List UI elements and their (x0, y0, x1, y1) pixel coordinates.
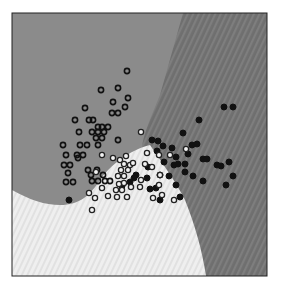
data-point (142, 161, 147, 166)
data-point (200, 178, 206, 184)
data-point (218, 163, 224, 169)
data-point (105, 193, 110, 198)
data-point (119, 187, 124, 192)
decision-boundary-chart (0, 0, 292, 290)
data-point (110, 155, 115, 160)
data-point (230, 173, 236, 179)
data-point (147, 186, 153, 192)
data-point (121, 161, 126, 166)
data-point (175, 161, 181, 167)
data-point (223, 182, 229, 188)
data-point (114, 194, 119, 199)
data-point (171, 197, 176, 202)
data-point (161, 159, 167, 165)
data-point (156, 152, 161, 157)
data-point (125, 167, 130, 172)
data-point (194, 141, 200, 147)
data-point (226, 159, 232, 165)
data-point (116, 181, 121, 186)
data-point (121, 173, 126, 178)
data-point (123, 153, 128, 158)
data-point (196, 117, 202, 123)
data-point (118, 167, 123, 172)
data-point (167, 152, 172, 157)
data-point (115, 173, 120, 178)
data-point (156, 182, 161, 187)
data-point (230, 104, 236, 110)
data-point (177, 194, 183, 200)
data-point (124, 194, 129, 199)
data-point (149, 137, 155, 143)
data-point (121, 180, 126, 185)
data-point (66, 197, 72, 203)
data-point (160, 143, 166, 149)
data-point (137, 184, 142, 189)
data-point (221, 104, 227, 110)
data-point (99, 185, 104, 190)
data-point (182, 161, 188, 167)
data-point (190, 173, 196, 179)
data-point (138, 129, 143, 134)
data-point (130, 160, 135, 165)
data-point (86, 190, 91, 195)
data-point (150, 195, 155, 200)
data-point (144, 175, 150, 181)
data-point (93, 169, 98, 174)
data-point (155, 138, 161, 144)
data-point (173, 154, 179, 160)
data-point (166, 173, 172, 179)
data-point (89, 207, 94, 212)
data-point (157, 172, 162, 177)
data-point (128, 184, 133, 189)
data-point (113, 187, 118, 192)
caption-placeholder (12, 280, 267, 286)
data-point (169, 145, 175, 151)
data-point (180, 130, 186, 136)
data-point (204, 156, 210, 162)
data-point (183, 146, 188, 151)
data-point (182, 169, 188, 175)
data-point (99, 152, 104, 157)
data-point (138, 177, 143, 182)
data-point (159, 192, 164, 197)
data-point (149, 164, 154, 169)
data-point (144, 150, 149, 155)
data-point (92, 195, 97, 200)
plot-area (12, 13, 267, 276)
data-point (173, 182, 179, 188)
